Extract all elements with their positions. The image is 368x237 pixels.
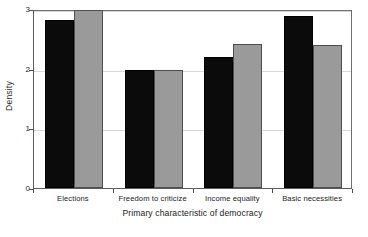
- bar-2-series-2: [154, 70, 183, 188]
- x-tick-label-4: Basic necessities: [272, 194, 352, 203]
- bar-3-series-2: [233, 44, 262, 188]
- bar-chart-figure: Density 3 2 1 0 Primary characteristic o…: [0, 0, 368, 237]
- x-axis-label: Primary characteristic of democracy: [33, 208, 352, 218]
- plot-area: [33, 10, 352, 189]
- x-tick-label-3: Income equality: [193, 194, 273, 203]
- bar-2-series-1: [125, 70, 154, 188]
- y-axis-label: Density: [4, 56, 14, 136]
- x-tick-mark-end: [352, 189, 353, 193]
- x-tick-label-1: Elections: [33, 194, 113, 203]
- x-tick-mark-3: [193, 189, 194, 193]
- x-tick-mark-2: [113, 189, 114, 193]
- x-tick-label-2: Freedom to criticize: [113, 194, 193, 203]
- y-tick-label-1: 1: [16, 125, 30, 133]
- y-axis-tick-labels: 3 2 1 0: [14, 0, 30, 237]
- bar-4-series-2: [313, 45, 342, 188]
- x-tick-mark-1: [33, 189, 34, 193]
- bar-4-series-1: [284, 16, 313, 188]
- bar-1-series-1: [45, 20, 74, 188]
- bar-3-series-1: [204, 57, 233, 188]
- plot-inner: [34, 11, 351, 188]
- x-tick-mark-4: [272, 189, 273, 193]
- y-tick-label-2: 2: [16, 66, 30, 74]
- y-tick-label-3: 3: [16, 6, 30, 14]
- bar-1-series-2: [74, 10, 103, 188]
- y-tick-label-0: 0: [16, 185, 30, 193]
